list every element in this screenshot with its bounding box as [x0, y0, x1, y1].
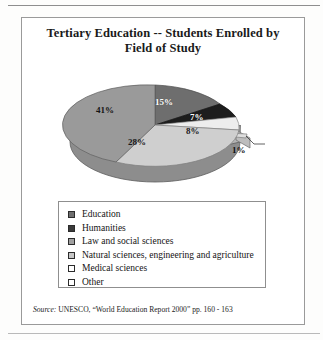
source-citation: Source: UNESCO, “World Education Report …	[33, 305, 303, 314]
legend-label-humanities: Humanities	[82, 223, 126, 234]
source-prefix: Source:	[33, 305, 56, 314]
pie-chart-svg	[60, 78, 265, 193]
pie-label-law-social-sciences: 8%	[186, 126, 200, 136]
pie-label-medical-sciences: 28%	[128, 137, 146, 147]
pie-label-other: 41%	[96, 105, 114, 115]
chart-title: Tertiary Education -- Students Enrolled …	[30, 26, 296, 56]
legend-label-law-social-sciences: Law and social sciences	[82, 236, 174, 247]
legend-swatch-medical-sciences	[68, 265, 75, 272]
pie-chart: 41% 15% 7% 8% 28% 1%	[60, 78, 265, 193]
legend-label-other: Other	[82, 277, 104, 288]
pie-label-humanities: 7%	[190, 112, 204, 122]
chart-title-line-2: Field of Study	[30, 41, 296, 56]
legend-label-natural-sciences: Natural sciences, engineering and agricu…	[82, 250, 254, 261]
document-page: Tertiary Education -- Students Enrolled …	[0, 0, 323, 340]
legend-item-other: Other	[68, 276, 265, 289]
legend-swatch-humanities	[68, 225, 75, 232]
pie-label-education: 15%	[155, 97, 173, 107]
chart-title-line-1: Tertiary Education -- Students Enrolled …	[30, 26, 296, 41]
legend-swatch-education	[68, 211, 75, 218]
legend-swatch-law-social-sciences	[68, 238, 75, 245]
legend-swatch-natural-sciences	[68, 252, 75, 259]
pie-label-natural-sciences: 1%	[232, 145, 246, 155]
legend-swatch-other	[68, 279, 75, 286]
source-text: UNESCO, “World Education Report 2000” pp…	[56, 305, 232, 314]
legend-item-natural-sciences: Natural sciences, engineering and agricu…	[68, 249, 265, 262]
legend-label-education: Education	[82, 209, 121, 220]
legend-item-education: Education	[68, 208, 265, 221]
legend-item-law-social-sciences: Law and social sciences	[68, 235, 265, 248]
legend-item-medical-sciences: Medical sciences	[68, 262, 265, 275]
page-top-rule	[8, 5, 320, 6]
legend-item-humanities: Humanities	[68, 222, 265, 235]
legend-label-medical-sciences: Medical sciences	[82, 263, 147, 274]
chart-legend: Education Humanities Law and social scie…	[58, 201, 266, 288]
page-bottom-rule	[8, 333, 320, 334]
